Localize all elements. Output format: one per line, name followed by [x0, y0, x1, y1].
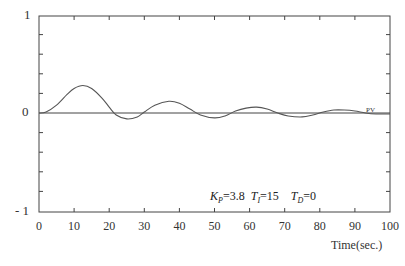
x-axis-label: Time(sec.) [331, 238, 382, 253]
x-tick-100: 100 [381, 219, 399, 234]
kp-value: =3.8 [223, 189, 245, 203]
x-tick-50: 50 [209, 219, 221, 234]
pv-label: PV [366, 106, 375, 114]
ti-value: =15 [260, 189, 279, 203]
chart-canvas [0, 0, 405, 266]
x-tick-30: 30 [138, 219, 150, 234]
y-tick-0: 0 [22, 104, 29, 120]
x-tick-40: 40 [173, 219, 185, 234]
kp-symbol: K [210, 189, 218, 203]
y-tick-minus-1: - 1 [15, 203, 29, 219]
x-tick-0: 0 [36, 219, 42, 234]
x-tick-70: 70 [279, 219, 291, 234]
axis-ticks [39, 16, 390, 212]
pv-curve [39, 86, 390, 119]
pid-parameters-annotation: KP=3.8 TI=15 TD=0 [210, 189, 316, 205]
td-symbol: T [291, 189, 298, 203]
y-tick-1: 1 [24, 7, 31, 23]
td-value: =0 [303, 189, 316, 203]
x-tick-20: 20 [103, 219, 115, 234]
x-tick-80: 80 [314, 219, 326, 234]
x-tick-90: 90 [349, 219, 361, 234]
plot-frame [39, 16, 390, 212]
x-tick-60: 60 [244, 219, 256, 234]
x-tick-10: 10 [68, 219, 80, 234]
